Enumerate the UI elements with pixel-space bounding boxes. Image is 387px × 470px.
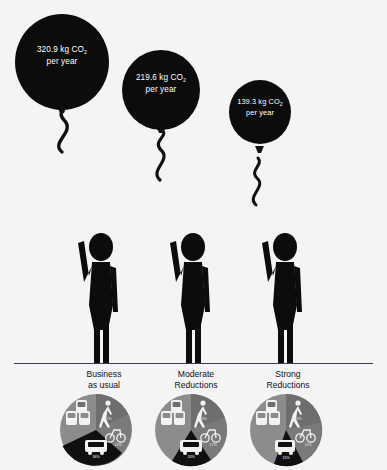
- pie-pct-walking: 29%: [294, 417, 302, 421]
- person-torso: [181, 262, 205, 330]
- mode-share-business-as-usual[interactable]: 28% 22% 14% 36%: [60, 394, 132, 466]
- balloon-group-moderate-reductions: 219.6 kg CO2 per year: [122, 50, 200, 180]
- person-torso: [89, 262, 113, 330]
- pie-pct-walking: 26%: [199, 417, 207, 421]
- balloon-knot-strong-reductions: [255, 146, 264, 153]
- scenario-label-line2: Reductions: [175, 380, 218, 390]
- person-head: [273, 233, 297, 261]
- person-leg-right: [195, 326, 201, 364]
- person-torso: [273, 262, 297, 330]
- mode-share-moderate-reductions[interactable]: 33% 26% 17% 24%: [155, 394, 227, 466]
- scenario-label-line1: Moderate: [178, 369, 215, 379]
- person-head: [181, 233, 205, 261]
- balloon-value-business-as-usual: 320.9 kg CO2: [37, 45, 87, 55]
- pie-pct-transit: 33%: [163, 418, 171, 422]
- person-leg-left: [94, 326, 100, 364]
- pie-pct-cycling: 19%: [304, 443, 312, 447]
- balloon-value-moderate-reductions: 219.6 kg CO2: [136, 73, 186, 83]
- pie-pct-cycling: 17%: [209, 443, 217, 447]
- pie-pct-car: 24%: [187, 455, 195, 459]
- balloon-period-strong-reductions: per year: [246, 108, 274, 117]
- scenario-label-line1: Strong: [275, 369, 301, 379]
- balloon-string-moderate-reductions: [157, 130, 164, 180]
- mode-share-strong-reductions[interactable]: 37% 29% 19% 15%: [250, 394, 322, 466]
- scenario-label-strong-reductions: Strong Reductions: [267, 369, 310, 390]
- person-leg-left: [278, 326, 284, 364]
- scenario-label-moderate-reductions: Moderate Reductions: [175, 369, 218, 390]
- person-strong-reductions: [262, 233, 302, 364]
- person-leg-right: [287, 326, 293, 364]
- balloon-period-business-as-usual: per year: [47, 57, 78, 66]
- person-moderate-reductions: [170, 233, 210, 364]
- person-business-as-usual: [78, 233, 118, 364]
- pie-pct-transit: 37%: [258, 418, 266, 422]
- person-head: [89, 233, 113, 261]
- infographic-svg: 320.9 kg CO2 per year 219.6 kg CO2 per y…: [0, 0, 387, 470]
- balloon-string-strong-reductions: [253, 158, 260, 205]
- pie-pct-car: 36%: [92, 455, 100, 459]
- pie-pct-cycling: 14%: [114, 443, 122, 447]
- scenario-label-line2: Reductions: [267, 380, 310, 390]
- pie-pct-car: 15%: [282, 456, 290, 460]
- infographic-canvas: 320.9 kg CO2 per year 219.6 kg CO2 per y…: [0, 0, 387, 470]
- pie-pct-walking: 22%: [104, 417, 112, 421]
- person-leg-left: [186, 326, 192, 364]
- balloon-group-business-as-usual: 320.9 kg CO2 per year: [15, 14, 109, 152]
- scenario-label-line1: Business: [87, 369, 122, 379]
- person-leg-right: [103, 326, 109, 364]
- pie-pct-transit: 28%: [68, 418, 76, 422]
- balloon-period-moderate-reductions: per year: [146, 85, 177, 94]
- balloon-value-strong-reductions: 139.3 kg CO2: [237, 97, 283, 107]
- scenario-label-line2: as usual: [88, 380, 120, 390]
- balloon-group-strong-reductions: 139.3 kg CO2 per year: [229, 80, 291, 205]
- scenario-label-business-as-usual: Business as usual: [87, 369, 122, 390]
